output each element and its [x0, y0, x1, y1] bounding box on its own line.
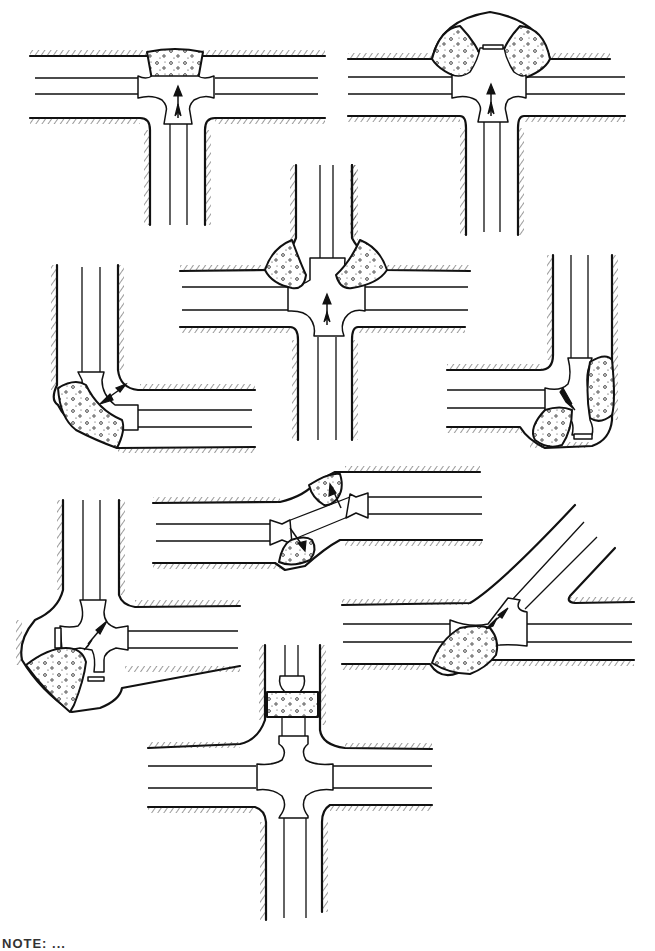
panel-tee-single-block [30, 49, 325, 225]
panel-cross-two-plugs [16, 500, 240, 712]
panel-wye-branch [342, 505, 634, 675]
panel-tee-double-block [348, 12, 625, 235]
panel-elbow-90 [51, 265, 255, 453]
panel-cross-reducer [148, 645, 432, 920]
figure-caption-partial: NOTE: ... [2, 936, 66, 951]
panel-tee-plugged-bend [447, 255, 618, 448]
panel-offset-bends [153, 466, 482, 570]
panel-cross-plugged [180, 165, 470, 440]
